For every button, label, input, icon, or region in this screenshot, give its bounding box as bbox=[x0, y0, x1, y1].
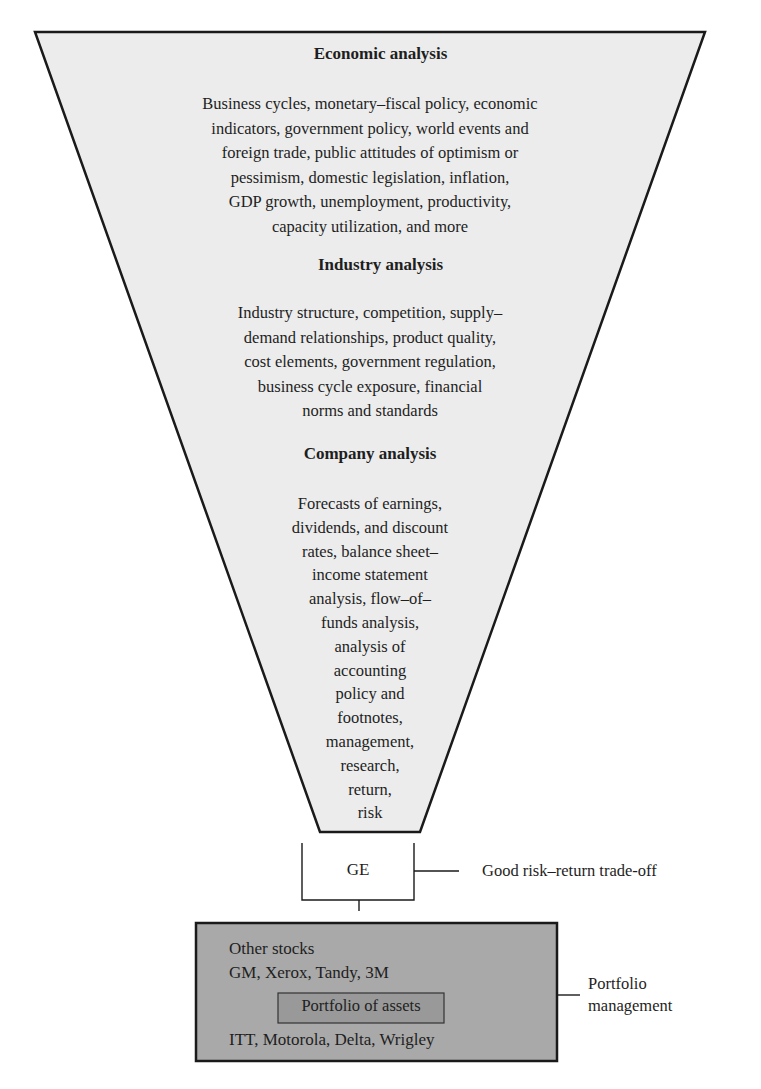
portfolio-of-assets-label: Portfolio of assets bbox=[278, 996, 444, 1016]
other-stocks-list-2: ITT, Motorola, Delta, Wrigley bbox=[229, 1028, 434, 1051]
text-line: business cycle exposure, financial bbox=[170, 375, 570, 400]
portfolio-management-annotation: Portfolio management bbox=[588, 973, 672, 1017]
text-line: pessimism, domestic legislation, inflati… bbox=[100, 166, 640, 191]
other-stocks-label: Other stocks bbox=[229, 937, 314, 960]
text-line: dividends, and discount bbox=[270, 516, 470, 540]
text-line: income statement bbox=[270, 563, 470, 587]
text-line: return, bbox=[270, 778, 470, 802]
text-line: management, bbox=[270, 730, 470, 754]
industry-analysis-details: Industry structure, competition, supply–… bbox=[170, 301, 570, 424]
text-line: cost elements, government regulation, bbox=[170, 350, 570, 375]
economic-analysis-details: Business cycles, monetary–fiscal policy,… bbox=[100, 92, 640, 239]
text-line: policy and bbox=[270, 682, 470, 706]
text-line: research, bbox=[270, 754, 470, 778]
text-line: funds analysis, bbox=[270, 611, 470, 635]
text-line: GDP growth, unemployment, productivity, bbox=[100, 190, 640, 215]
text-line: risk bbox=[270, 801, 470, 825]
text-line: rates, balance sheet– bbox=[270, 540, 470, 564]
annotation-line: management bbox=[588, 995, 672, 1017]
text-line: footnotes, bbox=[270, 706, 470, 730]
economic-analysis-heading: Economic analysis bbox=[0, 44, 761, 64]
annotation-line: Portfolio bbox=[588, 973, 672, 995]
text-line: demand relationships, product quality, bbox=[170, 326, 570, 351]
text-line: analysis of bbox=[270, 635, 470, 659]
text-line: capacity utilization, and more bbox=[100, 215, 640, 240]
text-line: Forecasts of earnings, bbox=[270, 492, 470, 516]
text-line: Industry structure, competition, supply– bbox=[170, 301, 570, 326]
industry-analysis-heading: Industry analysis bbox=[0, 255, 761, 275]
text-line: Business cycles, monetary–fiscal policy,… bbox=[100, 92, 640, 117]
selected-stock-label: GE bbox=[302, 860, 414, 880]
company-analysis-details: Forecasts of earnings, dividends, and di… bbox=[270, 492, 470, 825]
other-stocks-list-1: GM, Xerox, Tandy, 3M bbox=[229, 961, 389, 984]
risk-return-annotation: Good risk–return trade-off bbox=[482, 860, 657, 882]
text-line: analysis, flow–of– bbox=[270, 587, 470, 611]
text-line: indicators, government policy, world eve… bbox=[100, 117, 640, 142]
company-analysis-heading: Company analysis bbox=[0, 444, 740, 464]
text-line: norms and standards bbox=[170, 399, 570, 424]
text-line: foreign trade, public attitudes of optim… bbox=[100, 141, 640, 166]
text-line: accounting bbox=[270, 659, 470, 683]
